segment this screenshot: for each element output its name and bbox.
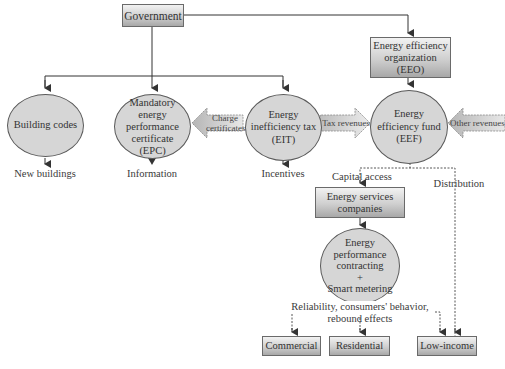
epc-line-2: energy [126, 109, 179, 121]
eef-line-1: Energy [377, 108, 441, 121]
eef-line-2: efficiency fund [377, 121, 441, 134]
incentives-label: Incentives [243, 168, 323, 180]
other-revenues-text: Other revenues [450, 118, 505, 128]
contracting-line-3: contracting [327, 260, 392, 272]
capital-access-label: Capital access [327, 171, 397, 183]
reliability-line-2: rebound effects [285, 313, 435, 325]
contracting-line-1: Energy [327, 237, 392, 249]
distribution-label: Distribution [429, 178, 489, 190]
eeo-box: Energy efficiency organization (EEO) [370, 37, 451, 78]
eeo-line-2: organization [373, 52, 448, 64]
residential-box: Residential [329, 336, 390, 356]
esco-line-1: Energy services [327, 191, 394, 203]
residential-label: Residential [336, 340, 383, 352]
low-income-box: Low-income [417, 336, 477, 356]
reliability-line-1: Reliability, consumers' behavior, [285, 301, 435, 313]
building-codes-ellipse: Building codes [7, 94, 84, 157]
esco-box: Energy services companies [315, 187, 405, 218]
building-codes-label: Building codes [14, 119, 77, 132]
esco-line-2: companies [327, 203, 394, 215]
eit-ellipse: Energy inefficiency tax (EIT) [245, 94, 322, 161]
government-label: Government [124, 10, 181, 22]
low-income-label: Low-income [420, 340, 474, 352]
reliability-label: Reliability, consumers' behavior, reboun… [285, 301, 435, 325]
tax-revenues-label: Tax revenues [322, 118, 370, 128]
epc-line-1: Mandatory [126, 97, 179, 109]
eeo-line-1: Energy efficiency [373, 40, 448, 52]
contracting-line-2: performance [327, 249, 392, 261]
tax-revenues-text: Tax revenues [322, 118, 370, 128]
commercial-label: Commercial [266, 340, 318, 352]
charge-certificates-line-1: Charge [206, 113, 244, 123]
contracting-line-5: Smart metering [327, 283, 392, 295]
epc-line-5: (EPC) [126, 145, 179, 157]
epc-line-4: certificate [126, 133, 179, 145]
other-revenues-label: Other revenues [450, 118, 505, 128]
information-label: Information [112, 168, 192, 180]
eeo-line-3: (EEO) [373, 64, 448, 76]
epc-line-3: performance [126, 121, 179, 133]
eef-ellipse: Energy efficiency fund (EEF) [370, 90, 448, 164]
eef-line-3: (EEF) [377, 133, 441, 146]
eit-line-3: (EIT) [251, 134, 316, 147]
government-box: Government [122, 4, 184, 27]
charge-certificates-line-2: certificates [206, 123, 244, 133]
commercial-box: Commercial [262, 336, 321, 356]
gov-to-eeo-connector [183, 15, 408, 33]
contracting-line-4: + [327, 272, 392, 284]
gov-down-connector [45, 26, 283, 88]
charge-certificates-label: Charge certificates [206, 113, 244, 133]
eit-line-1: Energy [251, 109, 316, 122]
new-buildings-label: New buildings [5, 168, 85, 180]
contracting-smart-metering-ellipse: Energy performance contracting + Smart m… [320, 228, 400, 304]
epc-ellipse: Mandatory energy performance certificate… [114, 94, 191, 159]
eit-line-2: inefficiency tax [251, 121, 316, 134]
